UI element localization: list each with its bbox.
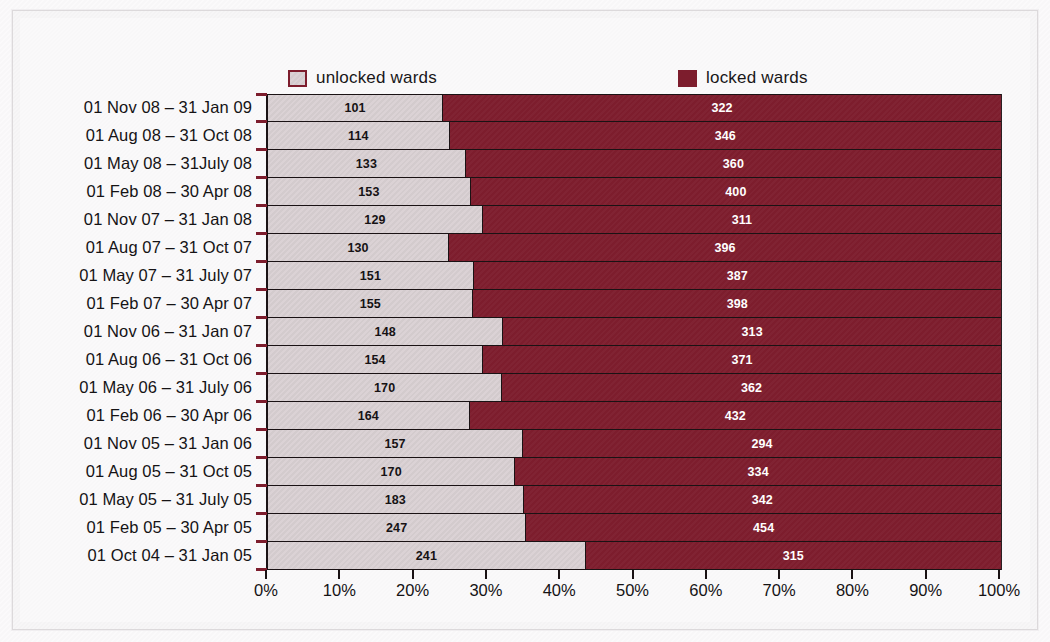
category-label: 01 May 06 – 31 July 06: [79, 378, 252, 397]
y-axis-tick: [256, 512, 267, 515]
bar-segment-unlocked: 183: [268, 486, 524, 513]
x-axis-tick: [632, 570, 634, 579]
bar-value-locked: 346: [715, 129, 736, 143]
bar-value-unlocked: 114: [348, 129, 368, 143]
y-axis-tick: [256, 93, 267, 96]
bar-segment-locked: 454: [526, 514, 1001, 541]
y-axis-tick: [256, 540, 267, 543]
y-axis-tick: [256, 176, 267, 179]
bar-value-locked: 322: [711, 101, 732, 115]
y-axis-tick: [256, 372, 267, 375]
bar-value-unlocked: 101: [344, 101, 365, 115]
x-axis-tick-label: 0%: [254, 581, 278, 600]
x-axis-tick-label: 70%: [763, 581, 796, 600]
bar-segment-unlocked: 170: [268, 458, 515, 485]
y-axis-tick: [256, 120, 267, 123]
bar-value-unlocked: 148: [375, 325, 396, 339]
bar-value-locked: 371: [731, 353, 752, 367]
bar-value-locked: 454: [753, 521, 774, 535]
bar-value-locked: 387: [727, 269, 748, 283]
x-axis-tick-label: 90%: [909, 581, 942, 600]
bar-value-unlocked: 247: [386, 521, 407, 535]
category-label: 01 Feb 05 – 30 Apr 05: [87, 518, 252, 537]
bar-row: 01 Nov 05 – 31 Jan 06157294: [268, 430, 1001, 458]
category-label: 01 Nov 07 – 31 Jan 08: [84, 210, 252, 229]
bar-value-locked: 342: [752, 493, 773, 507]
bar-row: 01 Feb 05 – 30 Apr 05247454: [268, 514, 1001, 542]
bar-segment-locked: 398: [473, 290, 1001, 317]
x-axis-tick: [265, 570, 267, 579]
y-axis-tick: [256, 428, 267, 431]
bar-value-unlocked: 170: [381, 465, 402, 479]
bar-value-unlocked: 241: [416, 549, 437, 563]
bar-segment-locked: 315: [586, 542, 1001, 569]
x-axis-tick-label: 10%: [323, 581, 356, 600]
x-axis-tick: [338, 570, 340, 579]
category-label: 01 Nov 08 – 31 Jan 09: [84, 98, 252, 117]
bar-segment-locked: 311: [483, 206, 1001, 233]
bar-segment-unlocked: 247: [268, 514, 526, 541]
bar-segment-unlocked: 154: [268, 346, 483, 373]
bar-row: 01 Nov 08 – 31 Jan 09101322: [268, 94, 1001, 122]
bar-segment-locked: 322: [443, 95, 1001, 121]
category-label: 01 Nov 05 – 31 Jan 06: [84, 434, 252, 453]
bar-value-unlocked: 153: [358, 185, 379, 199]
bar-segment-unlocked: 170: [268, 374, 502, 401]
x-axis-tick: [925, 570, 927, 579]
bar-value-locked: 362: [741, 381, 762, 395]
bar-value-unlocked: 157: [385, 437, 406, 451]
y-axis-tick: [256, 456, 267, 459]
bar-value-locked: 313: [742, 325, 763, 339]
x-axis-tick: [998, 570, 1000, 579]
bar-segment-unlocked: 155: [268, 290, 473, 317]
bar-segment-unlocked: 148: [268, 318, 503, 345]
bar-value-locked: 396: [714, 241, 735, 255]
bar-value-locked: 398: [727, 297, 748, 311]
category-label: 01 Aug 05 – 31 Oct 05: [86, 462, 252, 481]
x-axis: 0%10%20%30%40%50%60%70%80%90%100%: [266, 570, 999, 620]
bar-value-locked: 294: [751, 437, 772, 451]
bar-value-locked: 360: [723, 157, 744, 171]
category-label: 01 Oct 04 – 31 Jan 05: [88, 546, 252, 565]
x-axis-tick: [851, 570, 853, 579]
category-label: 01 Aug 08 – 31 Oct 08: [86, 126, 252, 145]
bar-segment-locked: 362: [502, 374, 1001, 401]
bar-value-unlocked: 154: [364, 353, 385, 367]
bar-segment-locked: 334: [515, 458, 1001, 485]
x-axis-tick-label: 20%: [396, 581, 429, 600]
bar-segment-locked: 360: [466, 150, 1001, 177]
y-axis-tick: [256, 316, 267, 319]
bar-segment-locked: 294: [523, 430, 1001, 457]
bar-value-locked: 334: [748, 465, 769, 479]
bar-value-unlocked: 155: [360, 297, 381, 311]
bar-row: 01 Aug 08 – 31 Oct 08114346: [268, 122, 1001, 150]
x-axis-tick: [705, 570, 707, 579]
category-label: 01 Feb 06 – 30 Apr 06: [87, 406, 252, 425]
bar-segment-unlocked: 114: [268, 122, 450, 149]
bar-row: 01 Feb 06 – 30 Apr 06164432: [268, 402, 1001, 430]
bar-row: 01 May 06 – 31 July 06170362: [268, 374, 1001, 402]
plot-area: 01 Nov 08 – 31 Jan 0910132201 Aug 08 – 3…: [266, 94, 1002, 570]
bar-row: 01 Feb 07 – 30 Apr 07155398: [268, 290, 1001, 318]
category-label: 01 May 07 – 31 July 07: [79, 266, 252, 285]
y-axis-tick: [256, 484, 267, 487]
category-label: 01 May 05 – 31 July 05: [79, 490, 252, 509]
bar-segment-locked: 346: [450, 122, 1001, 149]
category-label: 01 Feb 08 – 30 Apr 08: [87, 182, 252, 201]
stacked-bar-chart: 01 Nov 08 – 31 Jan 0910132201 Aug 08 – 3…: [20, 18, 1030, 622]
x-axis-tick-label: 30%: [469, 581, 502, 600]
bar-value-unlocked: 183: [385, 493, 406, 507]
bar-value-unlocked: 164: [358, 409, 379, 423]
bar-segment-locked: 387: [474, 262, 1001, 289]
category-label: 01 Aug 07 – 31 Oct 07: [86, 238, 252, 257]
bar-segment-unlocked: 151: [268, 262, 474, 289]
bar-segment-unlocked: 101: [268, 95, 443, 121]
paper-frame: unlocked wardslocked wards 01 Nov 08 – 3…: [12, 10, 1038, 630]
bar-value-unlocked: 133: [356, 157, 377, 171]
y-axis-tick: [256, 204, 267, 207]
bar-row: 01 May 05 – 31 July 05183342: [268, 486, 1001, 514]
bar-row: 01 May 07 – 31 July 07151387: [268, 262, 1001, 290]
bar-value-unlocked: 130: [348, 241, 369, 255]
x-axis-tick: [778, 570, 780, 579]
category-label: 01 Feb 07 – 30 Apr 07: [87, 294, 252, 313]
